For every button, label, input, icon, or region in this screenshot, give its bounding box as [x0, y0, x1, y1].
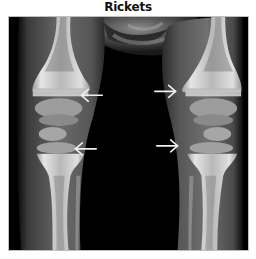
- right-tibial-epiphysis: [189, 142, 233, 154]
- left-tibial-epiphysis: [37, 142, 77, 154]
- right-patella: [203, 127, 231, 141]
- xray-image: [8, 16, 249, 251]
- figure-title: Rickets: [0, 0, 256, 16]
- left-patella: [39, 127, 67, 141]
- xray-illustration: [9, 17, 248, 250]
